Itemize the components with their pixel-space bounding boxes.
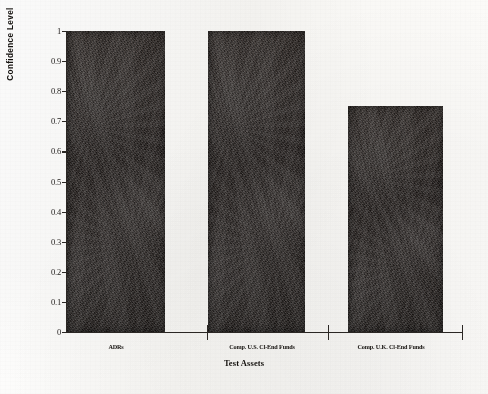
bar-texture xyxy=(67,31,165,332)
x-axis-line xyxy=(66,332,463,333)
plot-area: 0 0.1 0.2 0.3 0.4 0.5 0.6 0.7 xyxy=(67,31,463,332)
x-category-label-comp-us-closed-end-funds: Comp. U.S. Cl-End Funds xyxy=(198,343,326,350)
x-axis-title: Test Assets xyxy=(0,358,488,368)
x-category-label-comp-uk-closed-end-funds: Comp. U.K. Cl-End Funds xyxy=(327,343,455,350)
y-axis-title: Confidence Level xyxy=(6,0,15,124)
bar-texture xyxy=(208,31,305,332)
bar-texture xyxy=(348,106,443,332)
x-tick-separator-2 xyxy=(328,325,329,340)
bar-comp-us-closed-end-funds[interactable] xyxy=(208,31,305,332)
chart-page: Confidence Level 0 0.1 0.2 0.3 0.4 0.5 xyxy=(0,0,488,394)
y-tick-label-9: 0.9 xyxy=(51,56,61,66)
x-category-label-adrs: ADRs xyxy=(67,343,165,350)
y-tick-label-6: 0.6 xyxy=(51,146,61,156)
y-tick-label-3: 0.3 xyxy=(51,237,61,247)
y-tick-label-10: 1 xyxy=(57,26,61,36)
x-tick-end xyxy=(462,325,463,340)
bar-adrs[interactable] xyxy=(67,31,165,332)
y-tick-label-7: 0.7 xyxy=(51,116,61,126)
y-tick-label-8: 0.8 xyxy=(51,86,61,96)
y-tick-label-0: 0 xyxy=(57,327,61,337)
y-tick-label-5: 0.5 xyxy=(51,177,61,187)
y-tick-label-2: 0.2 xyxy=(51,267,61,277)
y-tick-label-1: 0.1 xyxy=(51,297,61,307)
y-tick-label-4: 0.4 xyxy=(51,207,61,217)
bar-comp-uk-closed-end-funds[interactable] xyxy=(348,106,443,332)
